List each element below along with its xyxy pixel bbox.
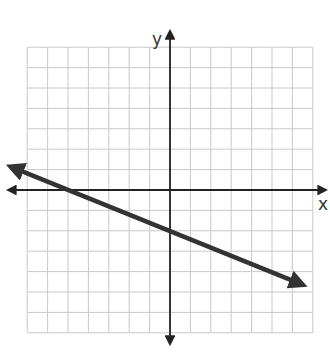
y-axis-label: y [152,29,162,49]
data-line [13,168,301,284]
x-axis-label: x [318,194,328,214]
coordinate-plane: y x [0,0,330,362]
